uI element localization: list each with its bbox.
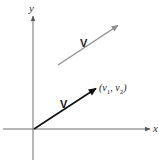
gray-vector-arrow [58, 26, 118, 66]
x-axis: x [3, 122, 158, 134]
gray-vector-label: V [80, 37, 88, 49]
endpoint-coordinates-label: (v1, v2) [99, 82, 127, 96]
x-axis-label: x [152, 122, 158, 134]
black-vector-label: V [60, 98, 68, 110]
y-axis: y [28, 2, 34, 160]
y-axis-label: y [28, 2, 34, 14]
translated-vector: V [58, 26, 118, 66]
vector-diagram: x y V V (v1, v2) [0, 0, 159, 164]
position-vector: V (v1, v2) [34, 82, 127, 129]
